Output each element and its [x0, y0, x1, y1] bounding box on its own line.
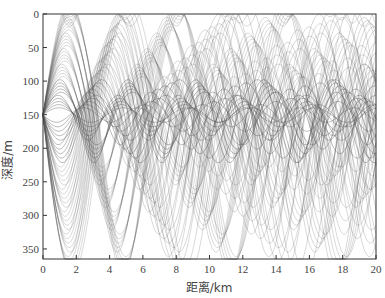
x-tick-label: 16 [304, 263, 316, 275]
y-axis-label: 深度/m [0, 140, 15, 180]
x-tick-label: 8 [173, 263, 179, 275]
y-tick-label: 0 [34, 8, 40, 20]
x-tick-label: 20 [371, 263, 383, 275]
x-tick-label: 0 [40, 263, 46, 275]
y-tick-label: 300 [23, 209, 40, 221]
x-tick-label: 12 [237, 263, 248, 275]
y-tick-label: 250 [23, 176, 40, 188]
x-tick-label: 2 [74, 263, 80, 275]
x-axis-ticks: 02468101214161820 [40, 255, 382, 275]
y-tick-label: 200 [23, 142, 40, 154]
x-tick-label: 6 [140, 263, 146, 275]
y-tick-label: 100 [23, 75, 40, 87]
y-tick-label: 150 [23, 109, 40, 121]
x-tick-label: 10 [204, 263, 216, 275]
y-tick-label: 50 [28, 42, 40, 54]
x-tick-label: 18 [337, 263, 349, 275]
x-tick-label: 14 [271, 263, 283, 275]
ray-trace-chart: 02468101214161820 050100150200250300350 … [0, 0, 385, 298]
x-axis-label: 距离/km [186, 280, 233, 295]
x-tick-label: 4 [107, 263, 113, 275]
y-tick-label: 350 [23, 243, 40, 255]
ray-paths [43, 14, 376, 259]
